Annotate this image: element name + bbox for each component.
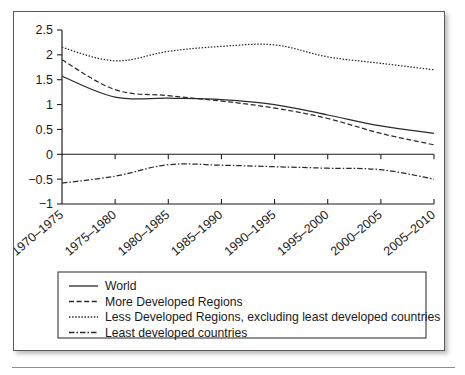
figure-frame: −1−0.500.511.522.5 1970–19751975–1980198…: [13, 11, 445, 351]
x-tick-label: 1995–2000: [275, 208, 332, 259]
y-tick-label: 0.5: [36, 123, 53, 137]
y-tick-label: 2.5: [36, 23, 53, 37]
series-lines: [62, 44, 434, 183]
page-root: −1−0.500.511.522.5 1970–19751975–1980198…: [0, 0, 465, 375]
x-tick-label: 1985–1990: [168, 208, 225, 259]
x-tick-label: 1980–1985: [115, 208, 172, 259]
x-tick-label: 2000–2005: [328, 208, 385, 259]
y-tick-label: 0: [46, 148, 53, 162]
bottom-divider-rule: [12, 367, 455, 368]
y-tick-label: 1: [46, 98, 53, 112]
series-line-3: [62, 164, 434, 183]
x-axis: [62, 154, 434, 204]
x-tick-labels: 1970–19751975–19801980–19851985–19901990…: [14, 208, 438, 259]
legend-label-1: More Developed Regions: [105, 295, 243, 309]
x-tick-label: 1970–1975: [14, 208, 66, 259]
chart-area: −1−0.500.511.522.5 1970–19751975–1980198…: [14, 12, 446, 352]
y-axis: −1−0.500.511.522.5: [28, 23, 434, 211]
x-tick-label: 1975–1980: [62, 208, 119, 259]
legend-label-2: Less Developed Regions, excluding least …: [105, 310, 440, 324]
y-tick-label: 1.5: [36, 73, 53, 87]
y-tick-label: −1: [39, 197, 53, 211]
line-chart: −1−0.500.511.522.5 1970–19751975–1980198…: [14, 12, 446, 352]
chart-legend: WorldMore Developed RegionsLess Develope…: [58, 272, 440, 340]
y-tick-label: −0.5: [28, 173, 53, 187]
y-tick-label: 2: [46, 48, 53, 62]
series-line-1: [62, 60, 434, 145]
series-line-2: [62, 44, 434, 70]
x-tick-label: 2005–2010: [381, 208, 438, 259]
legend-label-0: World: [105, 279, 137, 293]
legend-label-3: Least developed countries: [105, 326, 247, 340]
x-tick-label: 1990–1995: [222, 208, 279, 259]
